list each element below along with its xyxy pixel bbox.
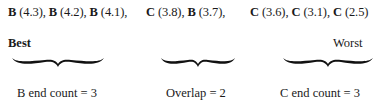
- c-end-count-caption: C end count = 3: [280, 86, 360, 101]
- brace-icon-b-end: [11, 54, 105, 72]
- sequence-group-b-end: B (4.3), B (4.2), B (4.1),: [8, 5, 127, 20]
- sequence-group-overlap: C (3.8), B (3.7),: [146, 5, 225, 20]
- brace-icon-c-end: [282, 54, 374, 72]
- worst-label: Worst: [333, 36, 363, 51]
- sequence-group-c-end: C (3.6), C (3.1), C (2.5): [250, 5, 368, 20]
- overlap-caption: Overlap = 2: [166, 86, 226, 101]
- best-label: Best: [8, 36, 31, 51]
- b-end-count-caption: B end count = 3: [17, 86, 97, 101]
- brace-icon-overlap: [160, 54, 236, 72]
